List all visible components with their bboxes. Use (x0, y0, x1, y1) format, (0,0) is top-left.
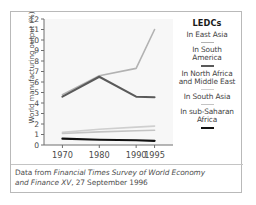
legend-item[interactable]: In North Africaand Middle East (173, 70, 241, 90)
x-tick-label: 1970 (52, 150, 73, 160)
legend-item[interactable]: In East Asia (173, 31, 241, 43)
caption-source-date: , 27 September 1996 (71, 178, 148, 187)
legend-swatch (201, 89, 214, 90)
legend-swatch (201, 104, 214, 105)
figure-caption: Data from Financial Times Survey of Worl… (11, 164, 243, 194)
caption-source-title-part-2: and Finance XV (15, 178, 71, 187)
caption-source-title-part-1: Financial Times Survey of World Economy (54, 168, 205, 177)
y-tick-label: 0 (34, 141, 39, 150)
legend-item-label-continued: and Middle East (173, 78, 241, 87)
legend-item-label: In East Asia (173, 31, 241, 40)
x-tick-group: 1970198019901995 (52, 145, 165, 160)
legend-item-label-continued: America (173, 54, 241, 63)
y-tick-group: 0123456789101112 (29, 15, 44, 150)
legend-item-label: In South Asia (173, 93, 241, 102)
caption-source-prefix: Data from (15, 168, 54, 177)
legend-swatch (201, 65, 214, 67)
y-tick-label: 5 (34, 88, 39, 97)
legend-swatch (201, 42, 214, 43)
y-tick-label: 8 (34, 57, 39, 66)
legend-item[interactable]: In sub-SaharanAfrica (173, 108, 241, 129)
y-tick-label: 1 (34, 130, 39, 139)
y-tick-label: 12 (29, 15, 39, 24)
caption-line-2: and Finance XV, 27 September 1996 (15, 178, 239, 188)
y-tick-label: 4 (34, 99, 39, 108)
legend-item[interactable]: In SouthAmerica (173, 46, 241, 67)
y-tick-label: 6 (34, 78, 39, 87)
legend-swatch (201, 127, 214, 129)
y-tick-label: 7 (34, 67, 39, 76)
y-tick-label: 2 (34, 120, 39, 129)
x-tick-label: 1995 (144, 150, 165, 160)
legend-items: In East AsiaIn SouthAmericaIn North Afri… (173, 31, 241, 129)
legend-title: LEDCs (173, 18, 241, 28)
caption-line-1: Data from Financial Times Survey of Worl… (15, 168, 239, 178)
y-tick-label: 9 (34, 46, 39, 55)
figure-panel: World manufacturing output (%) 012345678… (10, 11, 242, 193)
legend-item-label-continued: Africa (173, 116, 241, 125)
y-tick-label: 11 (29, 25, 39, 34)
y-tick-label: 3 (34, 109, 39, 118)
x-tick-label: 1980 (89, 150, 110, 160)
legend-item[interactable]: In South Asia (173, 93, 241, 105)
line-chart-plot: 0123456789101112 1970198019901995 (23, 15, 175, 163)
y-tick-label: 10 (29, 36, 39, 45)
chart-legend: LEDCs In East AsiaIn SouthAmericaIn Nort… (173, 14, 241, 164)
